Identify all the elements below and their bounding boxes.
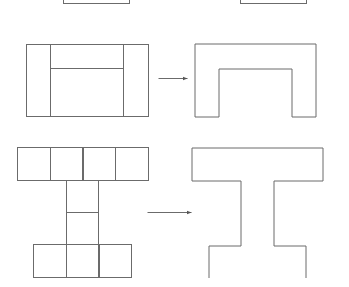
partial-box-right xyxy=(241,0,307,4)
i-blocks-to-i-beam-row xyxy=(18,148,324,279)
partial-row xyxy=(64,0,307,4)
stem-square xyxy=(67,181,99,213)
h-shape-composite xyxy=(27,45,149,117)
bottom-row-square xyxy=(67,245,100,278)
i-beam-outline xyxy=(192,148,323,278)
bottom-row-square xyxy=(34,245,67,278)
top-row-square xyxy=(51,148,84,181)
h-shape-outer xyxy=(27,45,149,117)
h-to-arch-row xyxy=(27,44,317,117)
top-row-square xyxy=(116,148,149,181)
partial-box-left xyxy=(64,0,130,4)
diagram-svg xyxy=(0,0,349,287)
top-row-square xyxy=(18,148,51,181)
top-row-square xyxy=(83,148,116,181)
bottom-row-square xyxy=(99,245,132,278)
stem-square xyxy=(67,213,99,245)
i-shape-blocks xyxy=(18,148,149,278)
arch-outline xyxy=(195,44,316,117)
diagram-canvas xyxy=(0,0,349,287)
